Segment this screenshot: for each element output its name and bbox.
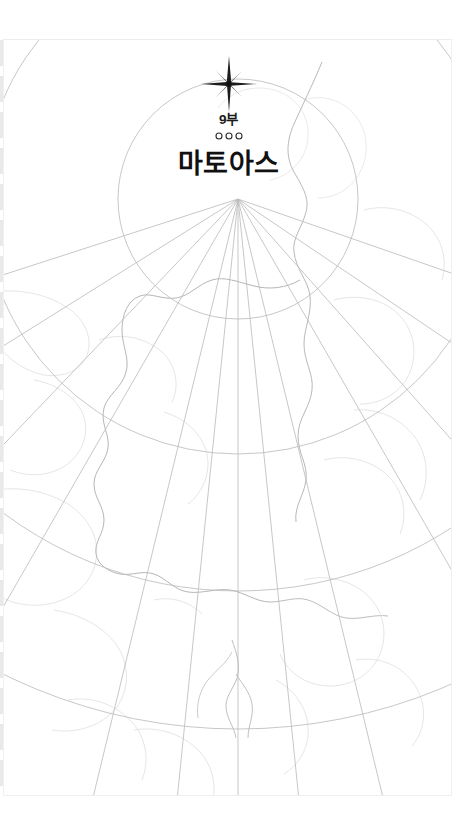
reader-viewport: 9부 마토아스 <box>0 0 473 836</box>
part-number-label: 9부 <box>4 113 452 128</box>
three-circles-divider-icon <box>4 131 452 141</box>
page-title: 마토아스 <box>4 148 452 180</box>
book-page-sheet: 9부 마토아스 <box>3 39 452 796</box>
four-pointed-star-icon <box>4 56 452 112</box>
map-meridians <box>4 199 452 796</box>
part-title-block: 9부 마토아스 <box>4 40 452 180</box>
